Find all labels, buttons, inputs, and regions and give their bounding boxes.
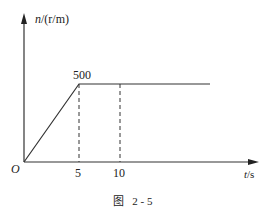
x-axis-unit: /s: [247, 168, 254, 180]
caption-prefix: 图: [113, 195, 124, 207]
x-tick-5: 5: [75, 166, 81, 181]
figure-caption: 图 2 - 5: [113, 192, 152, 208]
x-tick-10: 10: [113, 166, 125, 181]
x-axis-label: t/s: [244, 168, 254, 180]
peak-value-label: 500: [73, 68, 91, 83]
y-axis-arrow-icon: [21, 13, 27, 24]
speed-curve: [24, 84, 210, 162]
origin-label: O: [11, 162, 20, 177]
y-axis-label: n/(r/m): [35, 12, 69, 27]
chart-canvas: [0, 0, 269, 217]
x-axis-arrow-icon: [248, 159, 259, 165]
caption-number: 2 - 5: [132, 195, 152, 207]
y-axis-unit: /(r/m): [41, 12, 69, 26]
